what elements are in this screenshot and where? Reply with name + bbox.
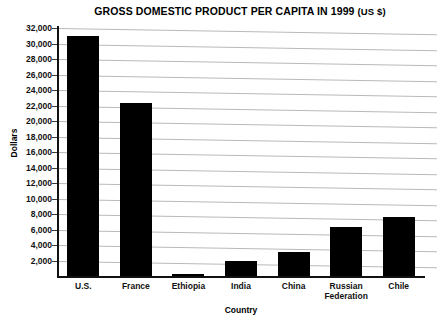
y-axis-tick-label: 26,000	[26, 70, 52, 80]
y-axis-tick-label: 18,000	[26, 132, 52, 142]
chart-title-suffix: (US $)	[358, 6, 386, 17]
gridline	[57, 121, 437, 128]
chart-title-main: GROSS DOMESTIC PRODUCT PER CAPITA IN 199…	[94, 5, 354, 17]
y-axis-tick-label: 2,000	[31, 256, 52, 266]
x-axis-category-label: China	[267, 281, 320, 291]
x-axis-category-label: France	[110, 281, 163, 291]
gridline	[57, 168, 437, 175]
bar	[120, 103, 152, 276]
gridline	[57, 230, 437, 237]
gridline	[57, 90, 437, 97]
y-axis-tick-label: 14,000	[26, 163, 52, 173]
gridline	[57, 75, 437, 82]
y-axis-tick-label: 20,000	[26, 116, 52, 126]
gridline	[57, 106, 437, 113]
y-axis-tick-label: 24,000	[26, 85, 52, 95]
y-axis-tick-label: 32,000	[26, 23, 52, 33]
plot-area	[57, 28, 425, 276]
y-axis-tick-label: 30,000	[26, 39, 52, 49]
x-axis-category-label: Chile	[372, 281, 425, 291]
gridline	[57, 44, 437, 51]
gdp-bar-chart: GROSS DOMESTIC PRODUCT PER CAPITA IN 199…	[0, 0, 437, 320]
gridline	[57, 214, 437, 221]
bar	[278, 252, 310, 276]
bar	[330, 227, 362, 276]
gridline	[57, 199, 437, 206]
bar	[225, 261, 257, 276]
y-axis-tick-labels: 32,00030,00028,00026,00024,00022,00020,0…	[0, 28, 52, 276]
x-axis-category-label: Russian Federation	[320, 281, 373, 301]
x-axis-title: Country	[57, 305, 425, 315]
y-axis-tick-label: 12,000	[26, 178, 52, 188]
bar	[67, 36, 99, 276]
gridline	[57, 59, 437, 66]
y-axis-line	[57, 26, 59, 278]
gridline	[57, 28, 437, 35]
y-axis-tick-label: 10,000	[26, 194, 52, 204]
y-axis-tick-label: 6,000	[31, 225, 52, 235]
chart-title: GROSS DOMESTIC PRODUCT PER CAPITA IN 199…	[60, 5, 420, 17]
x-axis-category-label: India	[215, 281, 268, 291]
x-axis-category-label: U.S.	[57, 281, 110, 291]
gridline	[57, 137, 437, 144]
y-axis-tick-label: 8,000	[31, 209, 52, 219]
gridline	[57, 245, 437, 252]
y-axis-tick-label: 22,000	[26, 101, 52, 111]
x-axis-line	[57, 276, 425, 278]
bar	[383, 217, 415, 276]
y-axis-tick-label: 4,000	[31, 240, 52, 250]
y-axis-tick-label: 28,000	[26, 54, 52, 64]
x-axis-category-label: Ethiopia	[162, 281, 215, 291]
gridline	[57, 183, 437, 190]
gridline	[57, 152, 437, 159]
y-axis-tick-label: 16,000	[26, 147, 52, 157]
